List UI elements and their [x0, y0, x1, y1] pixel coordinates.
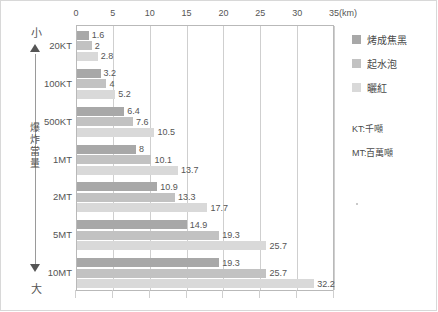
legend-swatch-icon	[352, 59, 361, 68]
legend-abbreviations: KT:千噸MT:百萬噸	[352, 122, 436, 170]
bar-value-label: 8	[139, 144, 144, 154]
yield-axis-large-label: 大	[14, 280, 58, 296]
bar-value-label: 7.6	[136, 116, 149, 126]
bar-group: 100KT3.245.2	[77, 69, 333, 99]
legend-label: 烤成焦黑	[367, 32, 407, 47]
bar[interactable]: 32.2	[77, 279, 314, 288]
legend-item-blister[interactable]: 起水泡	[352, 57, 436, 81]
yield-axis-title: 爆 炸 當 量	[22, 122, 48, 170]
bar[interactable]: 10.5	[77, 128, 154, 137]
bar-value-label: 2.8	[101, 51, 114, 61]
x-axis-bottom-tick	[149, 290, 150, 298]
abbreviation-note: KT:千噸	[352, 122, 436, 135]
bar[interactable]: 4	[77, 79, 106, 88]
category-label: 500KT	[44, 116, 72, 127]
yield-axis-small-label: 小	[14, 24, 58, 40]
bar-value-label: 17.7	[210, 203, 228, 213]
plot-area: 20KT1.622.8100KT3.245.2500KT6.47.610.51M…	[76, 25, 334, 290]
legend-item-charred[interactable]: 烤成焦黑	[352, 33, 436, 57]
yield-axis-title-char: 量	[22, 158, 48, 170]
bar[interactable]: 5.2	[77, 90, 115, 99]
bar-group: 1MT810.113.7	[77, 145, 333, 175]
bar-value-label: 10.9	[160, 182, 178, 192]
category-label: 100KT	[44, 78, 72, 89]
bar-value-label: 2	[95, 41, 100, 51]
category-label: 20KT	[49, 40, 72, 51]
yield-axis: 小 大 爆 炸 當 量	[14, 24, 58, 296]
bar[interactable]: 17.7	[77, 203, 207, 212]
bar-value-label: 4	[109, 79, 114, 89]
yield-axis-title-char: 當	[22, 146, 48, 158]
bar[interactable]: 1.6	[77, 31, 89, 40]
category-label: 10MT	[48, 267, 72, 278]
bar-value-label: 14.9	[190, 220, 208, 230]
bar[interactable]: 13.7	[77, 166, 178, 175]
stray-speck	[356, 203, 358, 205]
bar-value-label: 1.6	[92, 30, 105, 40]
bar-value-label: 13.7	[181, 165, 199, 175]
legend-label: 起水泡	[367, 56, 397, 71]
x-axis-tick-label: 30	[292, 8, 302, 18]
bar-value-label: 10.5	[157, 127, 175, 137]
arrow-up-icon	[30, 44, 40, 52]
x-axis-bottom-tick	[296, 290, 297, 298]
bar-value-label: 5.2	[118, 89, 131, 99]
legend-item-sunburn[interactable]: 曬紅	[352, 81, 436, 105]
bar[interactable]: 25.7	[77, 269, 266, 278]
bar-value-label: 32.2	[317, 278, 335, 288]
bar[interactable]: 19.3	[77, 258, 219, 267]
category-label: 5MT	[53, 229, 72, 240]
bar-group: 500KT6.47.610.5	[77, 107, 333, 137]
x-axis-bottom-tick	[333, 290, 334, 298]
x-axis-tick-label: 0	[73, 8, 78, 18]
bar-value-label: 19.3	[222, 257, 240, 267]
bar[interactable]: 13.3	[77, 193, 175, 202]
bar[interactable]: 19.3	[77, 231, 219, 240]
x-axis-tick-label: 35	[329, 8, 339, 18]
bar-value-label: 6.4	[127, 106, 140, 116]
x-axis-labels: 05101520253035(km)	[0, 8, 438, 22]
bar[interactable]: 7.6	[77, 117, 133, 126]
x-axis-tick-label: 5	[110, 8, 115, 18]
x-axis-bottom-tick	[112, 290, 113, 298]
category-label: 1MT	[53, 154, 72, 165]
x-axis-bottom-tick	[186, 290, 187, 298]
bar-value-label: 25.7	[269, 268, 287, 278]
bar[interactable]: 2	[77, 41, 92, 50]
bar-group: 20KT1.622.8	[77, 31, 333, 61]
bar-group: 5MT14.919.325.7	[77, 220, 333, 250]
bar[interactable]: 14.9	[77, 220, 187, 229]
category-label: 2MT	[53, 191, 72, 202]
bar-value-label: 13.3	[178, 192, 196, 202]
x-axis-tick-label: 15	[182, 8, 192, 18]
faded-title-strip	[70, 0, 370, 5]
x-axis-bottom-tick	[222, 290, 223, 298]
bar-value-label: 25.7	[269, 241, 287, 251]
x-axis-unit-label: (km)	[339, 8, 357, 18]
x-axis-bottom-tick	[259, 290, 260, 298]
bar-value-label: 3.2	[104, 68, 117, 78]
legend-swatch-icon	[352, 35, 361, 44]
bar[interactable]: 25.7	[77, 241, 266, 250]
bar-group: 10MT19.325.732.2	[77, 258, 333, 288]
gridline	[334, 26, 335, 290]
arrow-down-icon	[30, 264, 40, 272]
x-axis-tick-label: 25	[255, 8, 265, 18]
bar[interactable]: 2.8	[77, 52, 98, 61]
x-axis-tick-label: 20	[218, 8, 228, 18]
bar[interactable]: 8	[77, 145, 136, 154]
bar[interactable]: 10.9	[77, 182, 157, 191]
abbreviation-note: MT:百萬噸	[352, 146, 436, 159]
x-axis-bottom-tick	[75, 290, 76, 298]
bar[interactable]: 10.1	[77, 155, 151, 164]
x-axis-tick-label: 10	[145, 8, 155, 18]
bar-value-label: 10.1	[154, 154, 172, 164]
legend: 烤成焦黑起水泡曬紅	[352, 33, 436, 105]
yield-axis-title-char: 炸	[22, 134, 48, 146]
legend-label: 曬紅	[367, 80, 387, 95]
bar[interactable]: 6.4	[77, 107, 124, 116]
bar[interactable]: 3.2	[77, 69, 101, 78]
legend-swatch-icon	[352, 83, 361, 92]
bar-value-label: 19.3	[222, 230, 240, 240]
bar-group: 2MT10.913.317.7	[77, 182, 333, 212]
